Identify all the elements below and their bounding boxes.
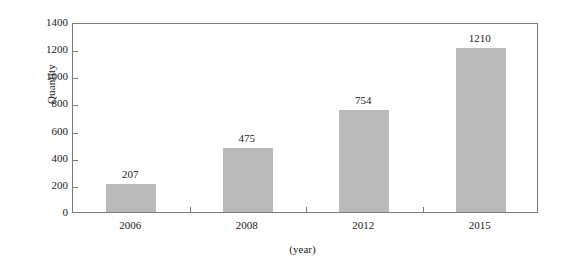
y-axis-tick-label: 200: [28, 180, 68, 191]
x-axis-title: (year): [0, 243, 561, 255]
chart-screenshot: Quantity 0200400600800100012001400 20062…: [0, 0, 561, 267]
y-axis-tick-label: 400: [28, 153, 68, 164]
x-axis-tick-mark: [190, 207, 191, 212]
x-axis-tick-mark: [306, 207, 307, 212]
x-axis-tick-label: 2008: [212, 219, 282, 231]
y-axis-tick-labels: 0200400600800100012001400: [24, 0, 68, 267]
y-axis-tick-label: 1400: [28, 17, 68, 28]
y-axis-tick-mark: [73, 78, 78, 79]
bar: [106, 184, 156, 212]
plot-area: [72, 23, 538, 213]
bar-value-label: 1210: [445, 32, 515, 44]
y-axis-tick-label: 1000: [28, 71, 68, 82]
y-axis-tick-label: 600: [28, 126, 68, 137]
y-axis-tick-label: 800: [28, 98, 68, 109]
x-axis-tick-label: 2006: [95, 219, 165, 231]
x-axis-title-text: (year): [289, 243, 315, 255]
bar-value-label: 754: [328, 94, 398, 106]
y-axis-tick-label: 0: [28, 207, 68, 218]
bar-value-label: 207: [95, 168, 165, 180]
bar: [223, 148, 273, 212]
bar-value-label: 475: [212, 132, 282, 144]
y-axis-tick-label: 1200: [28, 44, 68, 55]
y-axis-tick-mark: [73, 187, 78, 188]
bar: [456, 48, 506, 212]
x-axis-tick-label: 2015: [445, 219, 515, 231]
y-axis-tick-mark: [73, 51, 78, 52]
x-axis-tick-mark: [423, 207, 424, 212]
y-axis-tick-mark: [73, 133, 78, 134]
bar: [339, 110, 389, 212]
x-axis-tick-label: 2012: [328, 219, 398, 231]
y-axis-tick-mark: [73, 105, 78, 106]
y-axis-tick-mark: [73, 160, 78, 161]
